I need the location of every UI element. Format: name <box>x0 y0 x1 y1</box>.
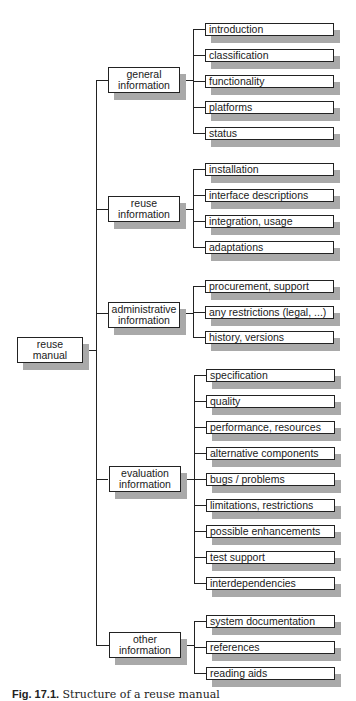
trunk-branch-other <box>96 645 109 646</box>
leaf-node-introduction: introduction <box>205 23 334 36</box>
leaf-node-classification: classification <box>205 49 334 62</box>
leaf-connector <box>193 133 205 134</box>
leaf-node-functionality: functionality <box>205 75 334 88</box>
leaf-connector <box>194 427 206 428</box>
leaf-node-specification: specification <box>206 369 335 382</box>
trunk-branch-reuse <box>96 209 108 210</box>
group-node-reuse-information: reuse information <box>108 196 180 222</box>
trunk-branch-general <box>96 80 108 81</box>
leaf-connector <box>194 621 206 622</box>
leaf-connector <box>193 29 205 30</box>
leaf-connector <box>193 337 205 338</box>
leaf-connector <box>194 505 206 506</box>
leaf-connector <box>194 375 206 376</box>
leaf-connector <box>194 557 206 558</box>
leaf-connector <box>193 286 205 287</box>
leaf-connector <box>194 453 206 454</box>
leaf-node-quality: quality <box>206 395 335 408</box>
group-branch-line <box>193 169 194 248</box>
trunk-branch-administrative <box>96 313 108 314</box>
root-label-line2: manual <box>18 350 82 361</box>
leaf-connector <box>193 81 205 82</box>
figure-caption-label: Fig. 17.1. <box>12 688 59 700</box>
group-node-administrative-information: administrative information <box>108 302 180 328</box>
group-label-line2: information <box>109 315 179 326</box>
leaf-node-history-versions: history, versions <box>205 331 334 344</box>
leaf-connector <box>193 221 205 222</box>
leaf-connector <box>194 647 206 648</box>
leaf-connector <box>194 673 206 674</box>
leaf-connector <box>194 531 206 532</box>
leaf-node-performance-resources: performance, resources <box>206 421 335 434</box>
leaf-connector <box>193 55 205 56</box>
leaf-connector <box>193 107 205 108</box>
group-node-evaluation-information: evaluation information <box>109 466 181 492</box>
root-node-reuse-manual: reuse manual <box>17 337 83 363</box>
group-node-general-information: general information <box>108 67 180 93</box>
group-label-line2: information <box>110 645 180 656</box>
leaf-node-test-support: test support <box>206 551 335 564</box>
leaf-node-interface-descriptions: interface descriptions <box>205 189 334 202</box>
leaf-node-reading-aids: reading aids <box>206 667 335 680</box>
leaf-node-interdependencies: interdependencies <box>206 577 335 590</box>
group-label-line2: information <box>109 209 179 220</box>
leaf-connector <box>194 479 206 480</box>
leaf-connector <box>194 401 206 402</box>
leaf-node-references: references <box>206 641 335 654</box>
leaf-node-status: status <box>205 127 334 140</box>
main-trunk-line <box>96 80 97 646</box>
group-node-other-information: other information <box>109 632 181 658</box>
leaf-node-system-documentation: system documentation <box>206 615 335 628</box>
leaf-node-platforms: platforms <box>205 101 334 114</box>
figure-caption-text: Structure of a reuse manual <box>63 688 220 701</box>
leaf-connector <box>193 195 205 196</box>
group-label-line2: information <box>109 80 179 91</box>
leaf-node-limitations-restrictions: limitations, restrictions <box>206 499 335 512</box>
leaf-node-installation: installation <box>205 163 334 176</box>
leaf-connector <box>194 583 206 584</box>
leaf-node-alternative-components: alternative components <box>206 447 335 460</box>
leaf-node-bugs-problems: bugs / problems <box>206 473 335 486</box>
group-label-line2: information <box>110 479 180 490</box>
leaf-connector <box>193 312 205 313</box>
leaf-node-any-restrictions: any restrictions (legal, ...) <box>205 306 334 319</box>
leaf-connector <box>193 169 205 170</box>
figure-caption: Fig. 17.1. Structure of a reuse manual <box>12 688 220 701</box>
leaf-node-integration-usage: integration, usage <box>205 215 334 228</box>
leaf-node-possible-enhancements: possible enhancements <box>206 525 335 538</box>
leaf-node-procurement-support: procurement, support <box>205 280 334 293</box>
leaf-node-adaptations: adaptations <box>205 241 334 254</box>
leaf-connector <box>193 247 205 248</box>
trunk-branch-evaluation <box>96 479 108 480</box>
